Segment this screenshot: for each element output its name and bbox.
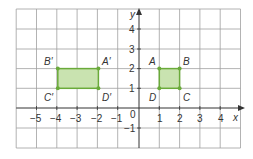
origin-label: 0	[130, 109, 136, 120]
point-a-prime	[96, 67, 100, 71]
label-a: A	[148, 56, 156, 67]
point-b	[178, 67, 182, 71]
point-c-prime	[56, 86, 60, 90]
label-c: C	[183, 92, 191, 103]
point-c	[178, 86, 182, 90]
y-tick-label: 4	[129, 24, 135, 35]
x-tick-label: 3	[197, 113, 203, 124]
label-d-prime: D′	[102, 92, 112, 103]
rectangle-abcd	[159, 69, 179, 89]
point-b-prime	[56, 67, 60, 71]
label-c-prime: C′	[44, 92, 54, 103]
y-tick-label: 2	[129, 63, 135, 74]
label-b-prime: B′	[44, 56, 54, 67]
y-tick-label: −1	[124, 123, 136, 134]
x-tick-label: 4	[218, 113, 224, 124]
coordinate-grid: B′ A′ C′ D′ A B C D y x 0 −5 −4 −3 −2 −1…	[0, 0, 253, 159]
point-a	[157, 67, 161, 71]
point-d-prime	[96, 86, 100, 90]
x-tick-label: −5	[30, 113, 42, 124]
x-tick-label: −3	[70, 113, 82, 124]
x-tick-label: −1	[111, 113, 123, 124]
y-tick-label: 1	[129, 83, 135, 94]
y-axis-label: y	[129, 9, 136, 20]
rectangle-a-prime-b-prime-c-prime-d-prime	[58, 69, 99, 89]
label-b: B	[183, 56, 190, 67]
point-d	[157, 86, 161, 90]
x-tick-label: 2	[177, 113, 183, 124]
x-axis-label: x	[232, 112, 239, 123]
label-d: D	[149, 92, 156, 103]
x-tick-label: 1	[157, 113, 163, 124]
y-tick-label: 3	[129, 44, 135, 55]
x-axis-arrow-icon	[238, 105, 245, 111]
x-tick-label: −4	[50, 113, 62, 124]
x-tick-label: −2	[91, 113, 103, 124]
label-a-prime: A′	[101, 56, 112, 67]
